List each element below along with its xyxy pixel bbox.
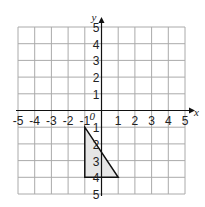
x-tick-label: 5 bbox=[182, 114, 189, 128]
y-tick-label: 5 bbox=[93, 21, 100, 35]
x-tick-label: 3 bbox=[148, 114, 155, 128]
x-tick-label: -5 bbox=[13, 114, 24, 128]
x-tick-label: -3 bbox=[46, 114, 57, 128]
y-tick-label: 2 bbox=[93, 71, 100, 85]
y-tick-label: 2 bbox=[93, 138, 100, 152]
y-tick-label: 3 bbox=[93, 54, 100, 68]
x-tick-label: 2 bbox=[132, 114, 139, 128]
x-tick-label: -2 bbox=[63, 114, 74, 128]
y-tick-label: 1 bbox=[93, 121, 100, 135]
y-tick-label: 5 bbox=[93, 188, 100, 202]
x-axis-label: x bbox=[193, 106, 199, 118]
origin-label: 0 bbox=[90, 110, 96, 122]
x-tick-label: 1 bbox=[115, 114, 122, 128]
x-tick-label: -4 bbox=[29, 114, 40, 128]
y-tick-label: 1 bbox=[93, 88, 100, 102]
y-tick-label: 3 bbox=[93, 155, 100, 169]
x-tick-label: 4 bbox=[165, 114, 172, 128]
y-tick-label: 4 bbox=[93, 38, 100, 52]
x-tick-label: -1 bbox=[79, 114, 90, 128]
y-tick-label: 4 bbox=[93, 171, 100, 185]
coordinate-grid: xy0-5-4-3-2-1123455432112345 bbox=[0, 0, 205, 207]
